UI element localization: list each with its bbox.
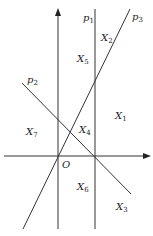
label-p3: p3 (132, 12, 143, 24)
label-region-x1: X1 (115, 111, 127, 123)
label-region-x5: X5 (77, 54, 89, 66)
label-p2: p2 (27, 75, 38, 87)
label-region-x4: X4 (79, 125, 91, 137)
label-region-x3: X3 (116, 202, 128, 214)
label-region-x7: X7 (26, 127, 38, 139)
line-p2 (22, 83, 131, 194)
label-p1: p1 (83, 13, 94, 25)
label-region-x6: X6 (77, 182, 89, 194)
label-region-x2: X2 (101, 33, 113, 45)
coordinate-diagram (0, 0, 153, 236)
label-origin: O (62, 160, 70, 170)
line-p3 (23, 9, 130, 229)
x-axis-arrow-icon (143, 153, 151, 159)
y-axis-arrow-icon (55, 8, 61, 16)
